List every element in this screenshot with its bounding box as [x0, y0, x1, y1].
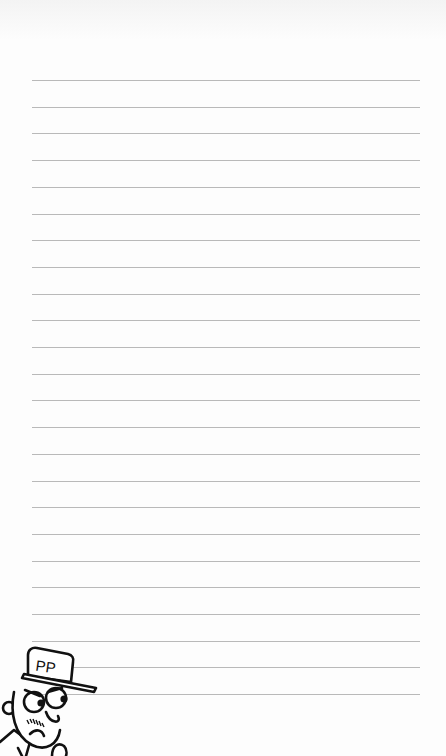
notepaper: PP: [0, 0, 446, 756]
ruled-line: [32, 133, 420, 134]
ruled-line: [32, 507, 420, 508]
ruled-line: [32, 240, 420, 241]
ruled-line: [32, 561, 420, 562]
ruled-line: [32, 267, 420, 268]
ruled-line: [32, 294, 420, 295]
ruled-line: [32, 481, 420, 482]
ruled-line: [32, 400, 420, 401]
ruled-line: [32, 80, 420, 81]
paper-texture: [0, 0, 446, 40]
ruled-line: [32, 534, 420, 535]
cap-label: PP: [35, 657, 57, 677]
ruled-line: [32, 614, 420, 615]
ruled-line: [32, 427, 420, 428]
ruled-line: [32, 160, 420, 161]
ruled-line: [32, 107, 420, 108]
ruled-line: [32, 587, 420, 588]
ruled-line: [32, 347, 420, 348]
ruled-line: [32, 374, 420, 375]
ruled-line: [32, 214, 420, 215]
ruled-line: [32, 320, 420, 321]
ruled-line: [32, 187, 420, 188]
cartoon-character-icon: PP: [0, 640, 110, 756]
ruled-line: [32, 454, 420, 455]
